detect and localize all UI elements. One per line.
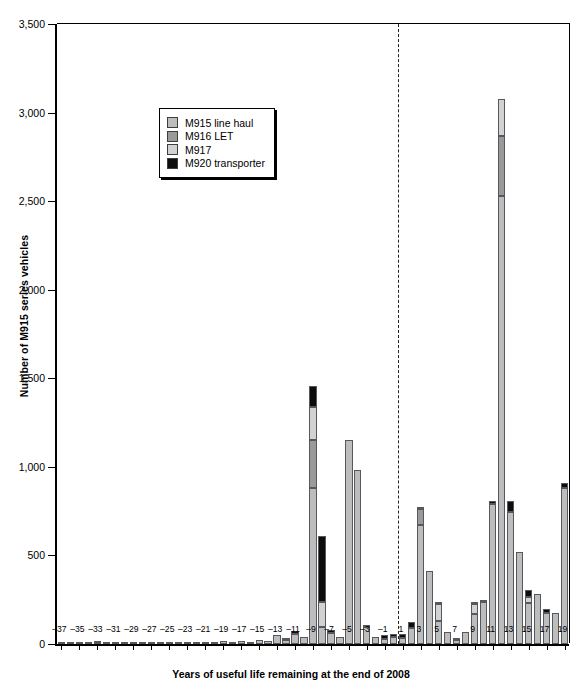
table-row[interactable]	[103, 643, 110, 645]
x-tick-mark	[565, 644, 566, 650]
x-tick-mark	[439, 644, 440, 650]
table-row[interactable]	[390, 634, 397, 644]
bar-segment	[561, 483, 568, 488]
table-row[interactable]	[372, 637, 379, 644]
y-tick-mark	[48, 113, 57, 114]
y-tick-mark	[48, 24, 57, 25]
bar-segment	[85, 642, 92, 644]
x-tick-mark	[313, 644, 314, 650]
legend-swatch-icon	[167, 144, 178, 155]
legend-swatch-icon	[167, 131, 178, 142]
x-tick-mark	[61, 644, 62, 650]
table-row[interactable]	[121, 643, 128, 645]
table-row[interactable]	[211, 642, 218, 644]
bar-segment	[372, 637, 379, 644]
x-tick-mark	[277, 644, 278, 650]
x-axis-title: Years of useful life remaining at the en…	[0, 668, 582, 680]
bar-segment	[327, 633, 334, 644]
table-row[interactable]	[175, 643, 182, 645]
bar-segment	[408, 622, 415, 628]
table-row[interactable]	[498, 99, 505, 644]
bar-segment	[229, 642, 236, 644]
table-row[interactable]	[247, 642, 254, 644]
table-row[interactable]	[264, 641, 271, 644]
table-row[interactable]	[462, 632, 469, 644]
table-row[interactable]	[507, 501, 514, 644]
legend-item[interactable]: M920 transporter	[167, 157, 265, 169]
x-tick-label: –13	[268, 624, 282, 634]
x-tick-label: 9	[470, 624, 475, 634]
table-row[interactable]	[139, 643, 146, 645]
y-tick-label: 1,500	[19, 372, 45, 384]
chart-legend: M915 line haulM916 LETM917M920 transport…	[159, 108, 275, 178]
x-tick-mark	[205, 644, 206, 650]
table-row[interactable]	[354, 470, 361, 644]
table-row[interactable]	[273, 635, 280, 644]
x-tick-label: 17	[540, 624, 550, 634]
x-tick-label: –1	[378, 624, 388, 634]
x-tick-label: –29	[124, 624, 138, 634]
table-row[interactable]	[426, 571, 433, 644]
table-row[interactable]	[229, 642, 236, 644]
x-tick-label: –3	[360, 624, 370, 634]
bar-segment	[282, 638, 289, 640]
bar-segment	[435, 604, 442, 621]
table-row[interactable]	[381, 635, 388, 644]
bar-segment	[426, 571, 433, 644]
table-row[interactable]	[399, 634, 406, 644]
x-tick-mark	[115, 644, 116, 650]
table-row[interactable]	[408, 622, 415, 644]
bar-segment	[471, 602, 478, 604]
legend-item[interactable]: M917	[167, 144, 265, 156]
x-tick-label: –33	[88, 624, 102, 634]
x-tick-label: –35	[70, 624, 84, 634]
y-tick-mark	[48, 555, 57, 556]
table-row[interactable]	[309, 386, 316, 644]
table-row[interactable]	[85, 643, 92, 645]
bar-segment	[309, 488, 316, 644]
x-tick-mark	[151, 644, 152, 650]
bar-segment	[453, 638, 460, 640]
x-tick-mark	[79, 644, 80, 650]
table-row[interactable]	[525, 590, 532, 644]
x-tick-mark	[385, 644, 386, 650]
table-row[interactable]	[193, 643, 200, 645]
bar-segment	[103, 642, 110, 644]
table-row[interactable]	[480, 601, 487, 644]
table-row[interactable]	[300, 637, 307, 644]
table-row[interactable]	[561, 483, 568, 644]
x-tick-label: –31	[106, 624, 120, 634]
x-tick-mark	[529, 644, 530, 650]
y-tick-mark	[48, 290, 57, 291]
x-tick-label: –23	[178, 624, 192, 634]
table-row[interactable]	[67, 643, 74, 645]
bar-segment	[282, 640, 289, 644]
x-tick-label: –17	[232, 624, 246, 634]
bar-segment	[345, 440, 352, 644]
x-tick-label: –21	[196, 624, 210, 634]
bar-segment	[498, 136, 505, 196]
legend-item[interactable]: M915 line haul	[167, 117, 265, 129]
bar-segment	[193, 642, 200, 644]
table-row[interactable]	[282, 638, 289, 644]
bar-segment	[94, 641, 101, 643]
y-tick-label: 0	[39, 638, 45, 650]
bar-segment	[264, 641, 271, 644]
table-row[interactable]	[336, 637, 343, 644]
x-tick-mark	[169, 644, 170, 650]
table-row[interactable]	[534, 594, 541, 644]
plot-area: 05001,0001,5002,0002,5003,0003,500	[55, 24, 569, 646]
table-row[interactable]	[444, 632, 451, 644]
x-tick-mark	[511, 644, 512, 650]
bar-segment	[354, 470, 361, 644]
table-row[interactable]	[157, 643, 164, 645]
bar-segment	[247, 642, 254, 644]
bar-segment	[139, 642, 146, 644]
x-tick-mark	[97, 644, 98, 650]
table-row[interactable]	[489, 501, 496, 644]
table-row[interactable]	[345, 440, 352, 644]
x-tick-label: 13	[504, 624, 514, 634]
bar-segment	[211, 642, 218, 644]
legend-item[interactable]: M916 LET	[167, 130, 265, 142]
bar-segment	[525, 590, 532, 597]
